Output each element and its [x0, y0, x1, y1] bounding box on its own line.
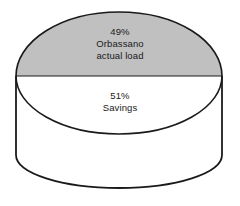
- slice-percent-savings: 51%: [0, 90, 240, 102]
- slice-label-savings: 51% Savings: [0, 90, 240, 114]
- slice-name-orbassano-line2: actual load: [0, 50, 240, 62]
- slice-name-orbassano-line1: Orbassano: [0, 38, 240, 50]
- slice-name-savings-line1: Savings: [0, 102, 240, 114]
- slice-percent-orbassano: 49%: [0, 26, 240, 38]
- pie-chart-3d: 49% Orbassano actual load 51% Savings: [0, 0, 240, 206]
- slice-label-orbassano: 49% Orbassano actual load: [0, 26, 240, 62]
